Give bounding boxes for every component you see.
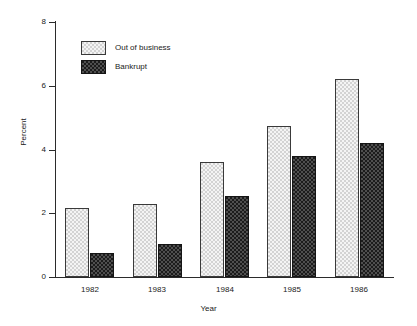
y-axis-tick — [49, 150, 55, 151]
legend-item-label: Bankrupt — [115, 63, 147, 71]
y-axis-tick-label: 8 — [18, 18, 46, 26]
bar-chart: Percent 02468 19821983198419851986 Year … — [0, 0, 417, 326]
bar-1983-bankrupt — [158, 244, 182, 277]
y-axis-tick — [49, 213, 55, 214]
y-axis-tick-label: 4 — [18, 146, 46, 154]
legend-item-label: Out of business — [115, 44, 171, 52]
x-axis-title: Year — [0, 305, 417, 313]
bar-1985-out-of-business — [267, 126, 291, 277]
bar-1983-out-of-business — [133, 204, 157, 277]
x-axis-line — [55, 277, 394, 278]
bar-1984-bankrupt — [225, 196, 249, 277]
plot-area — [56, 22, 393, 277]
y-axis-tick — [49, 22, 55, 23]
bar-1985-bankrupt — [292, 156, 316, 277]
y-axis-tick — [49, 86, 55, 87]
y-axis-tick-label: 0 — [18, 273, 46, 281]
x-axis-tick-label-1985: 1985 — [262, 286, 322, 294]
bar-1984-out-of-business — [200, 162, 224, 277]
x-axis-tick-label-1982: 1982 — [60, 286, 120, 294]
x-axis-tick-label-1983: 1983 — [127, 286, 187, 294]
y-axis-tick-label: 6 — [18, 82, 46, 90]
x-axis-tick-label-1984: 1984 — [195, 286, 255, 294]
x-axis-tick-label-1986: 1986 — [329, 286, 389, 294]
light-checker-swatch — [81, 41, 106, 55]
y-axis-tick-label: 2 — [18, 209, 46, 217]
bar-1982-out-of-business — [65, 208, 89, 277]
bar-1982-bankrupt — [90, 253, 114, 277]
bar-1986-out-of-business — [335, 79, 359, 277]
bar-1986-bankrupt — [360, 143, 384, 277]
dark-checker-swatch — [81, 60, 106, 74]
